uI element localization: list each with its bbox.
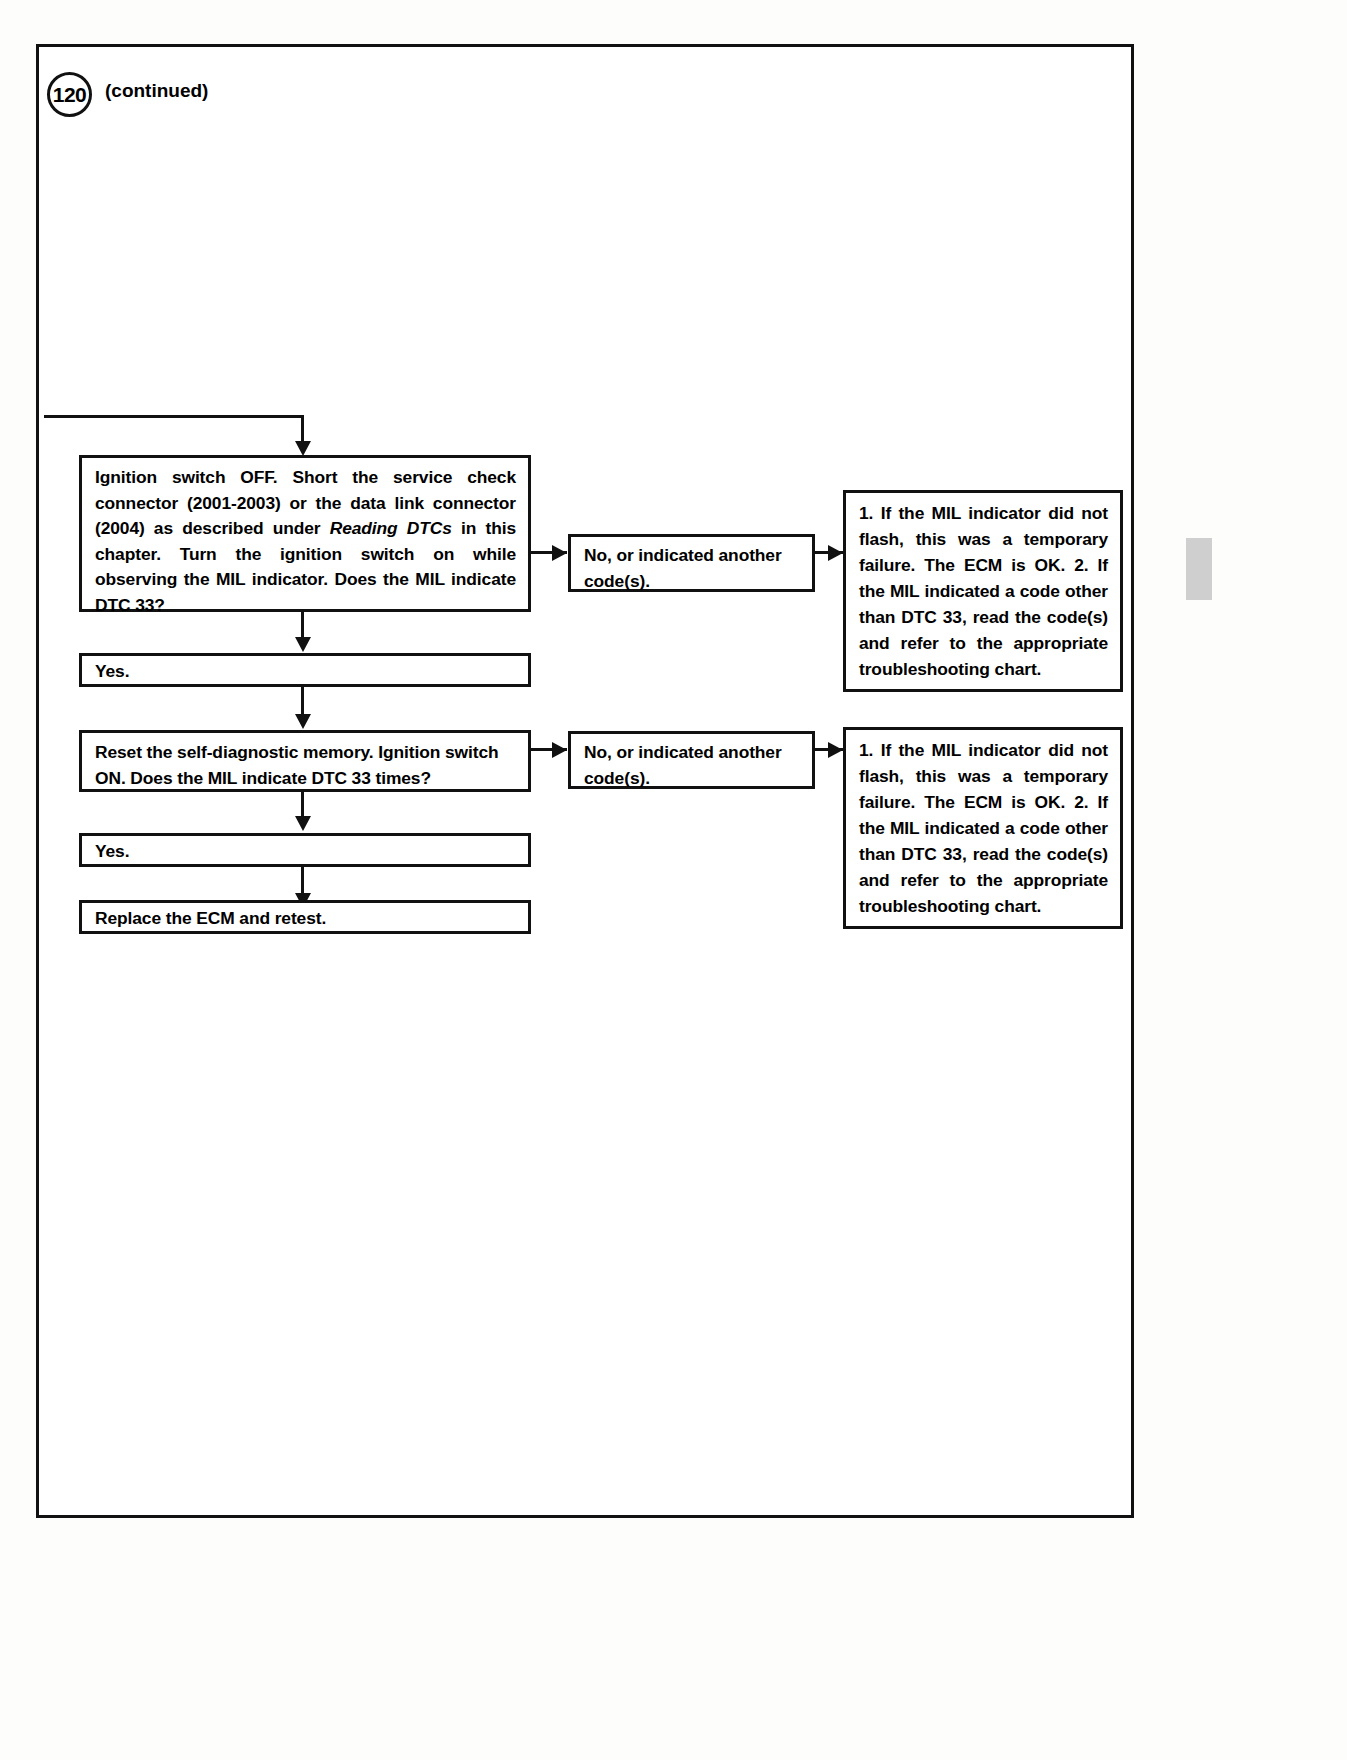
- step1-no-box: No, or indicated another code(s).: [568, 534, 815, 592]
- step1-line4: chapter. Turn the ignition switch on whi…: [95, 544, 516, 564]
- edge-index-tab: [1186, 538, 1212, 600]
- arrow-step1-to-yes1: [295, 637, 311, 652]
- step2-no-box: No, or indicated another code(s).: [568, 731, 815, 789]
- step1-line2: connector (2001-2003) or the data link c…: [95, 493, 516, 513]
- arrow-step2-to-yes2: [295, 816, 311, 831]
- continued-label: (continued): [105, 80, 208, 102]
- step1-line1: Ignition switch OFF. Short the service c…: [95, 467, 516, 487]
- step2-question-box: Reset the self-diagnostic memory. Igniti…: [79, 730, 531, 792]
- step1-line3-post: in this: [452, 518, 516, 538]
- step1-question-box: Ignition switch OFF. Short the service c…: [79, 455, 531, 612]
- step2-line2: ON. Does the MIL indicate DTC 33 times?: [95, 768, 431, 788]
- arrow-into-step1: [295, 441, 311, 456]
- arrow-yes1-to-step2: [295, 714, 311, 729]
- connector-top-horizontal: [44, 415, 304, 418]
- scanned-page: 120 (continued) Ignition switch OFF. Sho…: [0, 0, 1347, 1760]
- arrow-step2-to-no: [552, 742, 567, 758]
- step1-result-item1: 1. If the MIL indicator did not flash, t…: [859, 503, 1108, 575]
- arrow-no2-to-result2: [828, 742, 843, 758]
- step2-result-item1: 1. If the MIL indicator did not flash, t…: [859, 740, 1108, 812]
- step1-line3-italic: Reading DTCs: [330, 518, 452, 538]
- step2-result-box: 1. If the MIL indicator did not flash, t…: [843, 727, 1123, 929]
- final-action-box: Replace the ECM and retest.: [79, 900, 531, 934]
- step1-line5: observing the MIL indicator. Does the MI…: [95, 569, 445, 589]
- arrow-no1-to-result1: [828, 545, 843, 561]
- arrow-step1-to-no: [552, 545, 567, 561]
- step1-yes-box: Yes.: [79, 653, 531, 687]
- step1-line3-pre: (2004) as described under: [95, 518, 330, 538]
- page-number-badge: 120: [47, 72, 92, 117]
- step2-line1: Reset the self-diagnostic memory. Igniti…: [95, 742, 499, 762]
- step2-yes-box: Yes.: [79, 833, 531, 867]
- step1-result-box: 1. If the MIL indicator did not flash, t…: [843, 490, 1123, 692]
